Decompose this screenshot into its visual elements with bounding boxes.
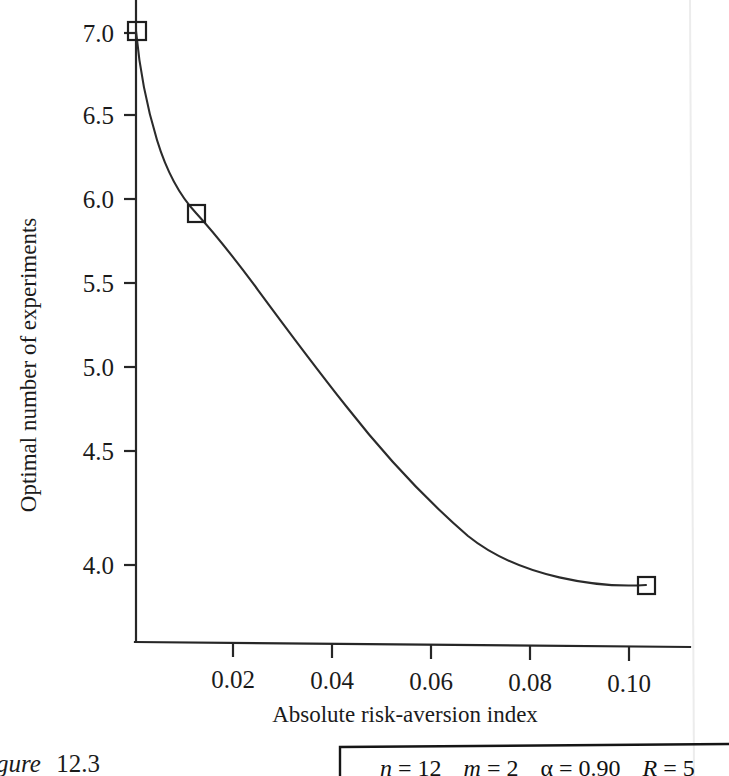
x-axis-tick-labels: 0.02 0.04 0.06 0.08 0.10 — [211, 666, 651, 697]
y-tick-label-5.0: 5.0 — [83, 354, 114, 381]
param-eq-m: = — [481, 755, 507, 776]
param-eq-n: = — [392, 755, 418, 776]
y-tick-label-4.0: 4.0 — [83, 552, 114, 579]
param-eq-R: = — [657, 755, 683, 776]
param-value-R: 5 — [683, 755, 695, 776]
y-tick-label-7.0: 7.0 — [83, 20, 114, 47]
x-tick-label-0.06: 0.06 — [409, 668, 453, 695]
y-tick-label-5.5: 5.5 — [83, 270, 114, 297]
x-tick-label-0.10: 0.10 — [607, 670, 651, 697]
y-axis-ticks — [124, 33, 136, 565]
curve-optimal-number-of-experiments — [136, 31, 646, 585]
page-edge-artifact — [690, 0, 694, 776]
y-axis-tick-labels: 7.0 6.5 6.0 5.5 5.0 4.5 4.0 — [83, 20, 114, 579]
figure-container: 7.0 6.5 6.0 5.5 5.0 4.5 4.0 0.02 0.04 0.… — [0, 0, 729, 776]
param-symbol-alpha: α — [540, 755, 553, 776]
param-symbol-R: R — [642, 755, 658, 776]
parameter-box: n = 12m = 2α = 0.90R = 5 — [340, 744, 729, 776]
param-value-m: 2 — [506, 755, 518, 776]
param-value-n: 12 — [418, 755, 442, 776]
x-tick-label-0.04: 0.04 — [310, 667, 354, 694]
x-axis-line — [135, 642, 690, 647]
param-value-alpha: 0.90 — [579, 755, 621, 776]
param-symbol-n: n — [380, 755, 392, 776]
y-axis-title: Optimal number of experiments — [16, 218, 41, 513]
y-tick-label-6.5: 6.5 — [83, 102, 114, 129]
x-tick-label-0.08: 0.08 — [508, 669, 552, 696]
param-symbol-m: m — [464, 755, 481, 776]
data-point-markers — [128, 22, 655, 594]
y-tick-label-4.5: 4.5 — [83, 438, 114, 465]
chart-canvas: 7.0 6.5 6.0 5.5 5.0 4.5 4.0 0.02 0.04 0.… — [0, 0, 729, 776]
x-axis-title: Absolute risk-aversion index — [272, 702, 538, 727]
figure-caption-number: 12.3 — [56, 750, 100, 776]
axes-group — [135, 0, 690, 647]
parameter-box-line: n = 12m = 2α = 0.90R = 5 — [380, 755, 695, 776]
param-eq-alpha: = — [553, 755, 579, 776]
figure-caption: gure 12.3 — [0, 750, 100, 776]
figure-caption-prefix: gure — [0, 750, 41, 776]
x-tick-label-0.02: 0.02 — [211, 666, 255, 693]
y-tick-label-6.0: 6.0 — [83, 186, 114, 213]
